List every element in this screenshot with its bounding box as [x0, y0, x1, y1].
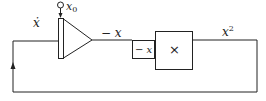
initial-condition-terminal — [58, 2, 64, 8]
output-label: x2 — [222, 24, 234, 39]
integrator-output-label: − x — [101, 26, 122, 40]
multiply-symbol: × — [169, 42, 180, 57]
integrator-triangle — [64, 19, 93, 58]
diagram-canvas: ẋ x0 − x − x × x2 — [0, 0, 266, 101]
arrow-up-icon — [11, 62, 16, 69]
arrow-down-icon — [59, 13, 63, 18]
block-diagram: ẋ x0 − x − x × x2 — [0, 0, 266, 101]
inverter-label: − x — [135, 44, 153, 55]
integrator-input-label: ẋ — [33, 16, 40, 30]
initial-condition-label: x0 — [66, 0, 77, 14]
integrator-bar — [59, 19, 64, 59]
